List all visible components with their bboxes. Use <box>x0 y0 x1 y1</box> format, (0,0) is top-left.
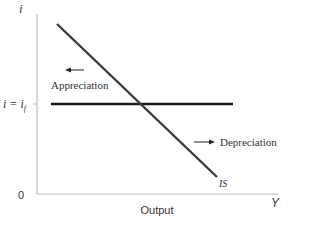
origin-label: 0 <box>18 189 24 201</box>
is-curve-diagram: i Y 0 Output i = if IS Appreciation Depr… <box>0 0 313 229</box>
right-arrow-icon <box>194 140 215 145</box>
depreciation-label: Depreciation <box>220 136 277 148</box>
left-arrow-icon <box>65 68 84 73</box>
y-axis-label: i <box>19 1 23 16</box>
x-axis-label: Y <box>271 196 280 210</box>
x-axis-title: Output <box>140 204 173 216</box>
y-tick-label: i = if <box>3 97 28 113</box>
is-curve-label: IS <box>218 178 227 189</box>
is-curve <box>57 24 217 177</box>
appreciation-label: Appreciation <box>51 79 109 91</box>
